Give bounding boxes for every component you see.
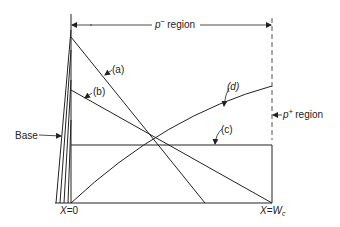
base-arrow	[39, 135, 61, 136]
curve-b-pointer	[85, 93, 92, 98]
curve-a-pointer	[105, 70, 112, 75]
p-plus-region-label: p+region	[282, 107, 323, 120]
curve-c-label: (c)	[221, 124, 233, 135]
curve-b-label: (b)	[93, 86, 105, 97]
curve-d-label: (d)	[227, 81, 239, 92]
diagram-canvas: p−region Base (a) (b) (c) (d) p+region X…	[0, 0, 340, 227]
base-label: Base	[15, 130, 38, 141]
curve-b	[71, 90, 272, 203]
p-minus-region-label: p−region	[154, 17, 195, 30]
x-zero-label: X=0	[59, 205, 79, 216]
curve-a-label: (a)	[112, 64, 124, 75]
x-wc-label: X=Wc	[259, 205, 286, 217]
